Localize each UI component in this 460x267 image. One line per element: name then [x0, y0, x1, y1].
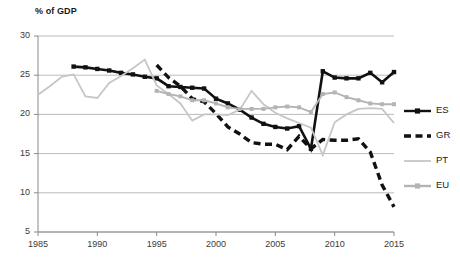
series-marker-es	[226, 101, 230, 105]
series-marker-eu	[190, 98, 194, 102]
series-marker-es	[321, 69, 325, 73]
series-marker-es	[297, 124, 301, 128]
x-tick-label: 2010	[315, 239, 355, 249]
y-tick-label: 15	[8, 148, 30, 158]
series-marker-eu	[167, 92, 171, 96]
series-marker-eu	[285, 105, 289, 109]
series-marker-es	[261, 122, 265, 126]
series-marker-eu	[356, 98, 360, 102]
series-marker-es	[143, 75, 147, 79]
series-marker-es	[392, 70, 396, 74]
series-marker-es	[202, 86, 206, 90]
series-marker-eu	[250, 107, 254, 111]
series-line-pt	[38, 60, 394, 156]
series-marker-eu	[155, 89, 159, 93]
series-marker-es	[71, 64, 75, 68]
series-marker-es	[107, 68, 111, 72]
series-marker-es	[190, 86, 194, 90]
series-marker-eu	[238, 107, 242, 111]
legend-label-eu: EU	[436, 179, 449, 190]
series-marker-eu	[273, 105, 277, 109]
x-tick-label: 2000	[196, 239, 236, 249]
series-marker-es	[95, 67, 99, 71]
series-marker-eu	[309, 110, 313, 114]
series-marker-es	[83, 65, 87, 69]
x-tick-label: 1995	[137, 239, 177, 249]
series-marker-es	[131, 72, 135, 76]
series-marker-es	[273, 125, 277, 129]
series-marker-es	[166, 84, 170, 88]
series-marker-es	[380, 80, 384, 84]
chart-plot-svg	[0, 0, 460, 267]
legend-label-es: ES	[436, 104, 449, 115]
chart-container: % of GDP 3025201510519851990199520002005…	[0, 0, 460, 267]
legend-label-pt: PT	[436, 154, 448, 165]
series-marker-eu	[178, 94, 182, 98]
series-marker-es	[356, 76, 360, 80]
y-tick-label: 10	[8, 187, 30, 197]
y-tick-label: 30	[8, 30, 30, 40]
series-marker-eu	[214, 101, 218, 105]
legend-label-gr: GR	[436, 129, 450, 140]
legend-marker-es	[415, 108, 420, 113]
series-marker-eu	[333, 90, 337, 94]
series-marker-eu	[321, 92, 325, 96]
series-marker-eu	[345, 95, 349, 99]
series-marker-es	[249, 115, 253, 119]
y-tick-label: 20	[8, 108, 30, 118]
legend-marker-eu	[415, 183, 420, 188]
series-marker-es	[344, 76, 348, 80]
series-marker-eu	[226, 105, 230, 109]
series-marker-eu	[202, 98, 206, 102]
x-tick-label: 2005	[255, 239, 295, 249]
series-marker-es	[368, 71, 372, 75]
x-tick-label: 1985	[18, 239, 58, 249]
series-marker-eu	[261, 107, 265, 111]
series-marker-es	[214, 97, 218, 101]
y-tick-label: 25	[8, 69, 30, 79]
series-marker-eu	[368, 101, 372, 105]
x-tick-label: 1990	[77, 239, 117, 249]
series-marker-eu	[380, 102, 384, 106]
series-marker-es	[332, 75, 336, 79]
series-marker-es	[285, 126, 289, 130]
series-marker-eu	[392, 102, 396, 106]
x-tick-label: 2015	[374, 239, 414, 249]
series-marker-eu	[297, 105, 301, 109]
y-tick-label: 5	[8, 226, 30, 236]
